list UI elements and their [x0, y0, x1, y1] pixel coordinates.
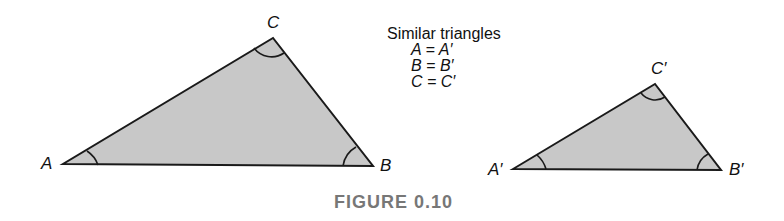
vertex-label-a: A [41, 154, 52, 174]
legend-line-a: A = A′ [387, 42, 501, 58]
legend-line-b: B = B′ [387, 58, 501, 74]
vertex-label-c-prime: C′ [651, 59, 666, 79]
vertex-label-b: B [380, 156, 391, 176]
legend-line-c: C = C′ [387, 74, 501, 90]
vertex-label-b-prime: B′ [729, 160, 744, 180]
triangle-large [63, 38, 373, 166]
figure-caption: FIGURE 0.10 [334, 192, 453, 213]
vertex-label-c: C [267, 13, 279, 33]
vertex-label-a-prime: A′ [488, 160, 503, 180]
legend-title: Similar triangles [387, 26, 501, 42]
triangle-small [513, 84, 721, 170]
similarity-legend: Similar triangles A = A′ B = B′ C = C′ [387, 26, 501, 90]
